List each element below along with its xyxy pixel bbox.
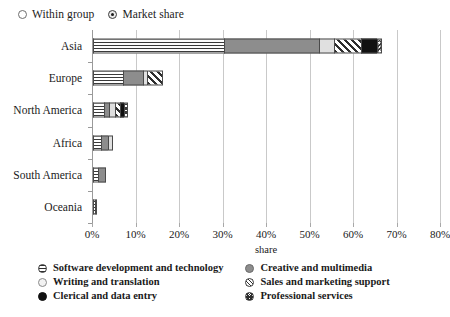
x-axis-tick-label: 0% [85,228,100,240]
creative-swatch-icon [245,264,254,273]
gridline [440,30,441,223]
legend-item[interactable]: Sales and marketing support [245,276,389,288]
x-axis-tick [92,223,93,227]
writing-swatch-icon [38,278,47,287]
y-axis-category-label: Asia [61,40,82,52]
gridline [136,30,137,223]
bar-segment[interactable] [123,71,143,86]
legend-column-right: Creative and multimediaSales and marketi… [245,262,389,302]
y-axis-category-label: Africa [53,137,82,149]
gridline [266,30,267,223]
radio-market-share-mark[interactable] [108,10,117,19]
legend-item-label: Creative and multimedia [260,262,372,274]
x-axis-tick [397,223,398,227]
x-axis-title: share [92,244,440,255]
y-axis-category-label: North America [13,104,82,116]
x-axis-tick-label: 70% [386,228,406,240]
y-axis-tick [88,223,92,224]
bar-north-america[interactable] [93,103,128,118]
chart-plot-area: AsiaEuropeNorth AmericaAfricaSouth Ameri… [0,30,448,235]
x-axis-tick-label: 80% [430,228,450,240]
x-axis-tick [223,223,224,227]
bar-segment[interactable] [147,71,162,86]
x-axis-tick-label: 40% [256,228,276,240]
y-axis-category-label: Oceania [44,201,82,213]
radio-within-group[interactable]: Within group [18,8,94,20]
view-mode-radio-group[interactable]: Within group Market share [18,8,184,20]
legend-item-label: Clerical and data entry [53,290,157,302]
gridline [179,30,180,223]
legend-item-label: Software development and technology [53,262,223,274]
clerical-swatch-icon [38,292,47,301]
radio-within-group-mark[interactable] [18,10,27,19]
y-axis-category-label: South America [13,169,82,181]
x-axis-tick [179,223,180,227]
bar-segment[interactable] [124,103,128,118]
bar-europe[interactable] [93,71,163,86]
x-axis-tick-label: 30% [212,228,232,240]
radio-market-share-label: Market share [122,8,184,20]
x-axis-tick-label: 50% [299,228,319,240]
legend-item[interactable]: Creative and multimedia [245,262,389,274]
gridline [353,30,354,223]
y-axis-labels: AsiaEuropeNorth AmericaAfricaSouth Ameri… [0,30,88,223]
x-axis-tick-label: 20% [169,228,189,240]
legend-item-label: Professional services [260,290,352,302]
gridline [397,30,398,223]
x-axis-tick [266,223,267,227]
radio-market-share[interactable]: Market share [108,8,184,20]
bar-segment[interactable] [377,39,383,54]
x-axis-tick [310,223,311,227]
bar-segment[interactable] [224,39,320,54]
legend-item[interactable]: Writing and translation [38,276,223,288]
bar-africa[interactable] [93,135,113,150]
y-axis-category-label: Europe [49,72,82,84]
bar-south-america[interactable] [93,167,106,182]
x-axis-tick-label: 10% [125,228,145,240]
chart-legend: Software development and technologyWriti… [38,262,438,302]
professional-swatch-icon [245,292,254,301]
bar-segment[interactable] [93,103,104,118]
bar-segment[interactable] [108,135,114,150]
bar-segment[interactable] [361,39,377,54]
y-axis-tick [88,94,92,95]
x-axis-tick [440,223,441,227]
legend-column-left: Software development and technologyWriti… [38,262,223,302]
x-axis-labels: 0%10%20%30%40%50%60%70%80% [92,228,440,244]
bar-asia[interactable] [93,39,382,54]
y-axis-line [92,30,93,223]
y-axis-tick [88,159,92,160]
bar-segment[interactable] [93,39,224,54]
legend-item-label: Sales and marketing support [260,276,389,288]
chart-axes [92,30,440,223]
y-axis-tick [88,127,92,128]
bar-oceania[interactable] [93,199,97,214]
x-axis-tick-label: 60% [343,228,363,240]
radio-within-group-label: Within group [32,8,94,20]
software-swatch-icon [38,264,47,273]
legend-item[interactable]: Clerical and data entry [38,290,223,302]
legend-item[interactable]: Software development and technology [38,262,223,274]
bar-segment[interactable] [98,167,105,182]
bar-segment[interactable] [334,39,361,54]
y-axis-tick [88,62,92,63]
gridline [223,30,224,223]
sales-swatch-icon [245,278,254,287]
legend-item[interactable]: Professional services [245,290,389,302]
bar-segment[interactable] [93,135,101,150]
x-axis-tick [136,223,137,227]
y-axis-tick [88,191,92,192]
bar-segment[interactable] [95,199,97,214]
bar-segment[interactable] [93,71,123,86]
gridline [310,30,311,223]
bar-segment[interactable] [319,39,334,54]
legend-item-label: Writing and translation [53,276,160,288]
x-axis-tick [353,223,354,227]
